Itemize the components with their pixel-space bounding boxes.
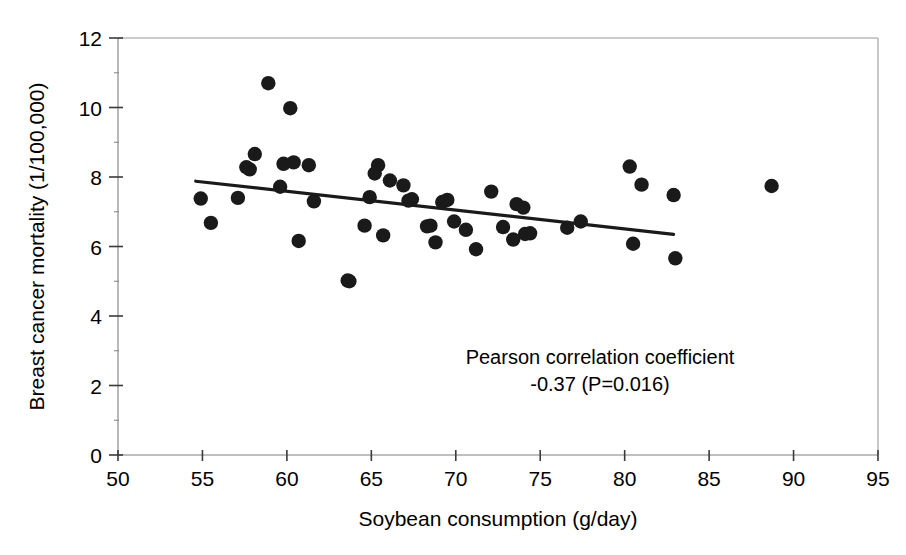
data-point	[496, 220, 510, 234]
data-point	[371, 158, 385, 172]
annotation-line-2: -0.37 (P=0.016)	[530, 373, 670, 395]
x-axis-tick-labels: 50556065707580859095	[106, 467, 889, 490]
data-point	[357, 218, 371, 232]
x-tick-label: 85	[697, 467, 720, 490]
data-point	[248, 147, 262, 161]
data-point	[484, 184, 498, 198]
y-tick-label: 10	[79, 97, 102, 120]
data-point	[423, 218, 437, 232]
y-axis-title: Breast cancer mortality (1/100,000)	[25, 83, 48, 411]
data-point	[634, 177, 648, 191]
y-axis-ticks	[109, 38, 123, 455]
data-point	[666, 188, 680, 202]
y-tick-label: 2	[90, 375, 102, 398]
y-axis-tick-labels: 024681012	[79, 27, 103, 467]
data-point	[302, 158, 316, 172]
data-point	[764, 179, 778, 193]
x-tick-label: 95	[866, 467, 889, 490]
data-point	[523, 226, 537, 240]
data-point	[459, 223, 473, 237]
data-point	[574, 214, 588, 228]
y-tick-label: 0	[90, 444, 102, 467]
x-tick-label: 90	[782, 467, 805, 490]
y-tick-label: 8	[90, 166, 102, 189]
x-tick-label: 60	[275, 467, 298, 490]
data-point	[668, 251, 682, 265]
scatter-plot-figure: 50556065707580859095 024681012 Soybean c…	[0, 0, 906, 555]
data-point	[286, 155, 300, 169]
plot-frame	[118, 38, 878, 455]
data-point	[626, 237, 640, 251]
data-point	[447, 214, 461, 228]
x-tick-label: 80	[613, 467, 636, 490]
data-point	[376, 228, 390, 242]
data-point	[292, 234, 306, 248]
data-point	[428, 235, 442, 249]
y-tick-label: 12	[79, 27, 102, 50]
data-point	[440, 193, 454, 207]
y-tick-label: 6	[90, 236, 102, 259]
chart-canvas: 50556065707580859095 024681012 Soybean c…	[0, 0, 906, 555]
data-point	[243, 162, 257, 176]
x-tick-label: 65	[360, 467, 383, 490]
x-tick-label: 70	[444, 467, 467, 490]
data-point	[342, 274, 356, 288]
x-tick-label: 50	[106, 467, 129, 490]
x-tick-label: 55	[191, 467, 214, 490]
data-point	[204, 216, 218, 230]
annotation-line-1: Pearson correlation coefficient	[466, 346, 735, 368]
x-axis-title: Soybean consumption (g/day)	[359, 507, 638, 530]
data-point	[261, 76, 275, 90]
data-point	[194, 191, 208, 205]
data-points	[194, 76, 779, 288]
data-point	[623, 159, 637, 173]
y-tick-label: 4	[90, 305, 102, 328]
data-point	[469, 242, 483, 256]
data-point	[516, 200, 530, 214]
data-point	[396, 178, 410, 192]
x-tick-label: 75	[529, 467, 552, 490]
data-point	[383, 173, 397, 187]
data-point	[231, 191, 245, 205]
data-point	[283, 101, 297, 115]
